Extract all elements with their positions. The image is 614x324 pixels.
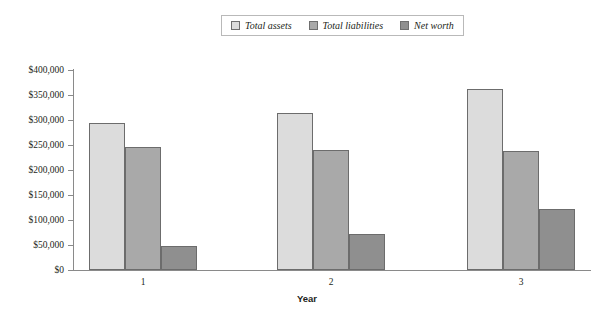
bar[interactable] xyxy=(161,246,197,271)
x-axis-line xyxy=(73,270,591,271)
legend-item-label: Total assets xyxy=(245,21,292,31)
bar[interactable] xyxy=(89,123,125,271)
x-axis-tick-label: 1 xyxy=(123,277,163,287)
y-axis-tick-label: $100,000 xyxy=(0,215,64,225)
bar[interactable] xyxy=(539,209,575,271)
y-axis-tick-label: $250,000 xyxy=(0,140,64,150)
y-axis-tick-label: $200,000 xyxy=(0,165,64,175)
legend-item[interactable]: Total liabilities xyxy=(309,21,383,31)
bar[interactable] xyxy=(125,147,161,270)
legend-swatch-icon xyxy=(309,21,318,30)
bar[interactable] xyxy=(313,150,349,271)
bar[interactable] xyxy=(467,89,503,271)
x-axis-tick-label: 2 xyxy=(311,277,351,287)
legend-item[interactable]: Net worth xyxy=(400,21,454,31)
legend-item-label: Total liabilities xyxy=(323,21,383,31)
y-axis-tick-label: $150,000 xyxy=(0,190,64,200)
y-axis-tick-label: $400,000 xyxy=(0,65,64,75)
bar-chart: Total assetsTotal liabilitiesNet worth $… xyxy=(0,0,614,324)
legend-item[interactable]: Total assets xyxy=(231,21,292,31)
y-axis-tick-label: $300,000 xyxy=(0,115,64,125)
y-axis-tick xyxy=(68,270,73,271)
chart-legend: Total assetsTotal liabilitiesNet worth xyxy=(221,15,464,36)
y-axis-tick-label: $350,000 xyxy=(0,90,64,100)
x-axis-title: Year xyxy=(0,294,614,304)
legend-item-label: Net worth xyxy=(414,21,454,31)
bar[interactable] xyxy=(277,113,313,271)
x-axis-tick-label: 3 xyxy=(501,277,541,287)
legend-swatch-icon xyxy=(400,21,409,30)
y-axis-tick-label: $50,000 xyxy=(0,240,64,250)
y-axis-tick-label: $0 xyxy=(0,265,64,275)
bar[interactable] xyxy=(503,151,539,271)
y-axis-tick-labels: $0$50,000$100,000$150,000$200,000$250,00… xyxy=(0,0,65,324)
bar[interactable] xyxy=(349,234,385,271)
legend-swatch-icon xyxy=(231,21,240,30)
plot-area xyxy=(73,70,590,270)
